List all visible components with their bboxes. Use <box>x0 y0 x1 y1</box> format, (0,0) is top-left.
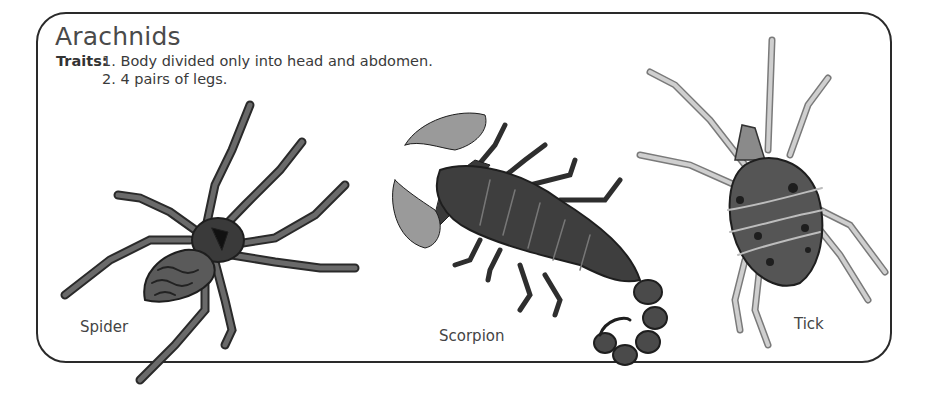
scorpion-illustration <box>393 113 667 365</box>
tick-illustration <box>640 40 885 345</box>
tick-caption: Tick <box>794 315 824 333</box>
scorpion-caption: Scorpion <box>439 327 505 345</box>
spider-illustration <box>65 105 355 380</box>
spider-caption: Spider <box>80 318 128 336</box>
